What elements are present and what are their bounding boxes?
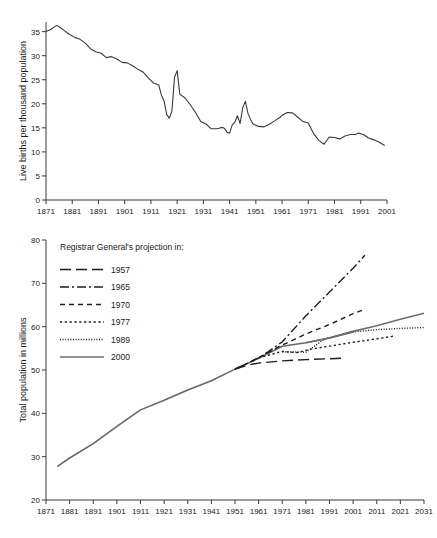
legend-title: Registrar General's projection in: bbox=[60, 242, 184, 252]
chart-panel-birth-rate: 05101520253035 1871188118911901191119211… bbox=[0, 0, 437, 228]
x-tick-label: 1941 bbox=[202, 507, 220, 516]
y-tick-label: 80 bbox=[31, 236, 40, 245]
x-tick-label: 1961 bbox=[273, 207, 291, 216]
population-line-1957 bbox=[235, 358, 341, 369]
x-tick-label: 1911 bbox=[142, 207, 160, 216]
y-tick-label: 70 bbox=[31, 279, 40, 288]
birth-rate-y-axis-title: Live births per thousand population bbox=[18, 41, 28, 181]
legend-label-1970: 1970 bbox=[111, 300, 130, 310]
y-tick-label: 10 bbox=[31, 148, 40, 157]
x-tick-label: 2001 bbox=[344, 507, 362, 516]
y-tick-label: 25 bbox=[31, 76, 40, 85]
legend-label-1989: 1989 bbox=[111, 335, 130, 345]
population-svg: 20304050607080 1871188118911901191119211… bbox=[0, 228, 437, 538]
y-tick-label: 50 bbox=[31, 366, 40, 375]
x-tick-label: 1991 bbox=[321, 507, 339, 516]
y-tick-label: 20 bbox=[31, 496, 40, 505]
population-line-2000 bbox=[306, 313, 424, 342]
population-y-axis-title: Total population in millions bbox=[18, 317, 28, 423]
population-line-historical bbox=[58, 332, 353, 466]
x-tick-label: 2021 bbox=[391, 507, 409, 516]
y-tick-label: 20 bbox=[31, 100, 40, 109]
y-tick-label: 60 bbox=[31, 323, 40, 332]
x-tick-label: 2001 bbox=[378, 207, 396, 216]
x-tick-label: 1901 bbox=[108, 507, 126, 516]
x-tick-label: 1921 bbox=[168, 207, 186, 216]
x-tick-label: 1941 bbox=[221, 207, 239, 216]
x-tick-label: 1901 bbox=[116, 207, 134, 216]
legend-label-1965: 1965 bbox=[111, 282, 130, 292]
y-tick-label: 0 bbox=[36, 196, 41, 205]
chart-panel-population: 20304050607080 1871188118911901191119211… bbox=[0, 228, 437, 538]
y-tick-label: 30 bbox=[31, 453, 40, 462]
x-tick-label: 1981 bbox=[297, 507, 315, 516]
legend-label-1977: 1977 bbox=[111, 317, 130, 327]
x-tick-label: 1951 bbox=[226, 507, 244, 516]
population-line-1965 bbox=[235, 255, 365, 369]
x-tick-label: 1921 bbox=[155, 507, 173, 516]
y-tick-label: 40 bbox=[31, 409, 40, 418]
legend-label-1957: 1957 bbox=[111, 265, 130, 275]
population-x-axis: 1871188118911901191119211931194119511961… bbox=[37, 500, 433, 516]
y-tick-label: 15 bbox=[31, 124, 40, 133]
x-tick-label: 2031 bbox=[415, 507, 433, 516]
x-tick-label: 1991 bbox=[352, 207, 370, 216]
birth-rate-y-axis: 05101520253035 bbox=[31, 28, 46, 205]
x-tick-label: 1971 bbox=[273, 507, 291, 516]
x-tick-label: 1961 bbox=[250, 507, 268, 516]
population-legend: Registrar General's projection in: 19571… bbox=[60, 242, 184, 362]
y-tick-label: 35 bbox=[31, 28, 40, 37]
y-tick-label: 5 bbox=[36, 172, 41, 181]
y-tick-label: 30 bbox=[31, 52, 40, 61]
x-tick-label: 1911 bbox=[132, 507, 150, 516]
legend-label-2000: 2000 bbox=[111, 352, 130, 362]
x-tick-label: 1971 bbox=[299, 207, 317, 216]
x-tick-label: 2011 bbox=[368, 507, 386, 516]
x-tick-label: 1931 bbox=[194, 207, 212, 216]
population-y-axis: 20304050607080 bbox=[31, 236, 46, 505]
x-tick-label: 1951 bbox=[247, 207, 265, 216]
x-tick-label: 1981 bbox=[326, 207, 344, 216]
x-tick-label: 1871 bbox=[37, 207, 55, 216]
x-tick-label: 1881 bbox=[63, 207, 81, 216]
birth-rate-line bbox=[46, 25, 384, 145]
legend-items: 195719651970197719892000 bbox=[60, 265, 130, 363]
x-tick-label: 1871 bbox=[37, 507, 55, 516]
figure-container: 05101520253035 1871188118911901191119211… bbox=[0, 0, 437, 538]
x-tick-label: 1881 bbox=[61, 507, 79, 516]
x-tick-label: 1931 bbox=[179, 507, 197, 516]
birth-rate-svg: 05101520253035 1871188118911901191119211… bbox=[0, 0, 437, 228]
x-tick-label: 1891 bbox=[90, 207, 108, 216]
x-tick-label: 1891 bbox=[84, 507, 102, 516]
birth-rate-x-axis: 1871188118911901191119211931194119511961… bbox=[37, 200, 396, 216]
